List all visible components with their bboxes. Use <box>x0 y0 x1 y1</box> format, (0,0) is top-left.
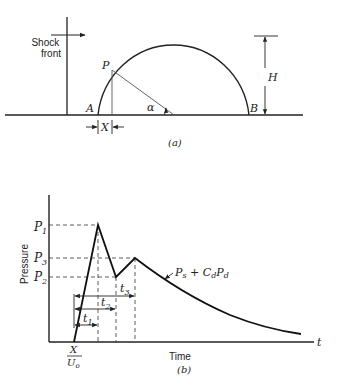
p3-label: P3 <box>33 251 47 267</box>
angle-arc <box>164 108 166 115</box>
t1-label: t1 <box>83 312 93 327</box>
point-p-label: P <box>101 59 110 72</box>
angle-label: α <box>147 101 155 114</box>
curve-annotation-arrow <box>165 273 173 279</box>
point-a-label: A <box>85 102 94 115</box>
dome-arc <box>98 45 249 115</box>
origin-label-denominator: Uo <box>67 357 80 370</box>
figure-b: t Pressure Time (b) P1 P3 P2 t1 t2 t3 X … <box>19 195 322 375</box>
figure-b-caption: (b) <box>177 364 191 375</box>
curve-annotation-label: Ps + CdPd <box>174 266 229 280</box>
pressure-curve <box>74 225 301 342</box>
t3-label: t3 <box>120 282 130 297</box>
radius-line <box>112 70 174 115</box>
y-axis-label: Pressure <box>19 244 30 284</box>
figure-a-caption: (a) <box>168 137 182 148</box>
x-axis-end-label: t <box>317 336 322 349</box>
h-dim-label: H <box>267 71 278 84</box>
shock-front-label: Shock front <box>31 37 62 59</box>
figure-canvas: Shock front α P A B X H (a) t Pressure <box>0 0 337 391</box>
p2-label: P2 <box>33 270 47 286</box>
origin-label-numerator: X <box>69 344 78 355</box>
p1-label: P1 <box>33 220 47 236</box>
x-dim-label: X <box>100 121 110 134</box>
x-axis-label: Time <box>169 351 191 362</box>
t2-label: t2 <box>101 296 111 311</box>
figure-a: Shock front α P A B X H (a) <box>5 17 303 148</box>
point-b-label: B <box>249 102 258 115</box>
